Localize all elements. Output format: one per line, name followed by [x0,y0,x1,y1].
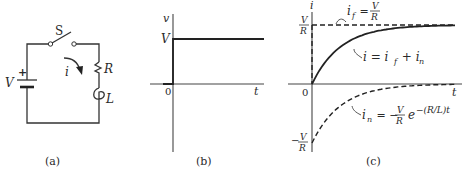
caption-c: (c) [366,155,381,168]
c-i-sub2: n [419,57,424,66]
c-pos-level-den: R [299,26,307,36]
inductor-symbol [94,88,105,105]
b-level-label: V [161,32,171,46]
caption-a: (a) [45,155,60,168]
c-y-label: i [310,0,314,12]
battery-plus-sign: + [18,66,27,79]
c-x-label: t [452,86,457,99]
c-in-annotation: i n = − V R e −(R/L)t [362,105,450,126]
wire-bottom [27,87,99,123]
switch-label: S [55,24,63,38]
c-origin-label: 0 [302,87,308,98]
resistor-label: R [103,62,113,76]
figure-canvas: S R L + V i (a) v V 0 t (b) [0,0,462,172]
panel-c-plot: i 0 t V R − V R i f = V R i = i [288,0,462,168]
current-arrow-head [76,66,83,75]
b-origin-label: 0 [165,86,171,97]
c-if-num: V [372,1,380,11]
c-in-den: R [395,116,403,126]
c-in-sub: n [367,115,372,124]
caption-b: (b) [196,155,212,168]
c-pos-level-label: V R [299,15,309,36]
c-neg-level-num: V [300,132,308,142]
c-i-leader [354,49,362,58]
switch-terminal-right [72,42,76,46]
c-if-leader [336,19,346,24]
c-if-annotation: i f = V R [347,1,380,22]
c-in-num: V [397,105,405,115]
panel-b-plot: v V 0 t (b) [150,12,264,168]
source-label: V [5,76,15,90]
b-y-label: v [163,12,170,25]
c-if-eq: = [356,5,372,18]
wire-right-top [76,44,99,62]
c-pos-level-num: V [301,15,309,25]
wire-left-top [27,44,48,80]
c-if-den: R [370,12,378,22]
c-i-annotation: i = i f + i n [363,50,424,66]
panel-a-circuit: S R L + V i (a) [5,24,114,168]
c-neg-level-label: − V R [291,132,308,153]
c-in-eq: = − [373,109,398,122]
b-x-label: t [254,85,259,98]
c-in-leader [352,106,361,115]
c-neg-level-den: R [298,143,306,153]
inductor-label: L [105,92,114,106]
c-in-lhs: i [362,108,366,122]
current-label: i [65,65,69,79]
c-in-exp: −(R/L)t [416,105,450,115]
b-series-voltage-step [163,39,264,84]
c-i-text1: i = i [363,50,389,64]
resistor-symbol [95,62,101,88]
c-if-lhs: i [347,4,351,18]
c-i-text2: + i [398,50,420,64]
c-in-e: e [408,108,415,122]
